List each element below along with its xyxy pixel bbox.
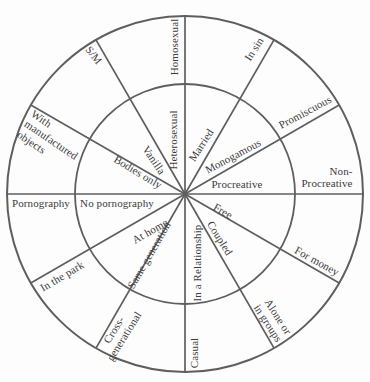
- wheel-graphic: [0, 0, 370, 382]
- spoke-240deg: [31, 194, 185, 283]
- spoke-300deg: [31, 105, 185, 194]
- spoke-210deg: [96, 194, 185, 348]
- spoke-330deg: [96, 40, 185, 194]
- spoke-120deg: [185, 194, 339, 283]
- spoke-60deg: [185, 105, 339, 194]
- spoke-30deg: [185, 40, 274, 194]
- charmed-circle-diagram: Heterosexual Married Monogamous Procreat…: [0, 0, 370, 382]
- spoke-150deg: [185, 194, 274, 348]
